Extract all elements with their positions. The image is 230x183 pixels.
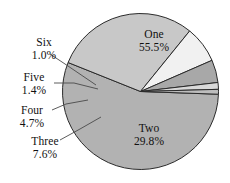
slice-label-two: Two 29.8% — [119, 122, 179, 148]
slice-label-two-percent: 29.8% — [119, 135, 179, 148]
slice-label-one: One 55.5% — [124, 28, 184, 54]
slice-label-one-percent: 55.5% — [124, 41, 184, 54]
slice-label-four-percent: 4.7% — [6, 117, 58, 130]
slice-label-six-name: Six — [18, 36, 70, 49]
slice-label-four: Four 4.7% — [6, 104, 58, 130]
slice-label-two-name: Two — [119, 122, 179, 135]
slice-label-five-name: Five — [8, 71, 60, 84]
slice-label-three-percent: 7.6% — [16, 148, 74, 161]
slice-label-six: Six 1.0% — [18, 36, 70, 62]
slice-label-three: Three 7.6% — [16, 135, 74, 161]
slice-label-four-name: Four — [6, 104, 58, 117]
slice-label-one-name: One — [124, 28, 184, 41]
pie-chart-figure: One 55.5% Two 29.8% Three 7.6% Four 4.7%… — [0, 0, 230, 183]
slice-label-six-percent: 1.0% — [18, 49, 70, 62]
slice-label-five-percent: 1.4% — [8, 84, 60, 97]
slice-label-three-name: Three — [16, 135, 74, 148]
slice-label-five: Five 1.4% — [8, 71, 60, 97]
